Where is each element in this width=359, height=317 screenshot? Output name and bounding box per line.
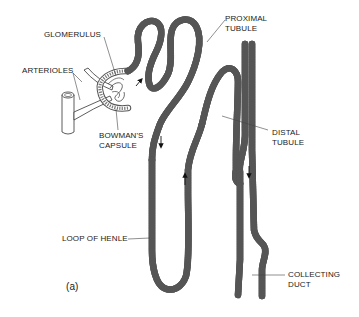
label-distal-tubule-2: TUBULE [272,138,304,148]
bowmans-capsule [100,71,128,108]
label-arterioles: ARTERIOLES [22,66,74,76]
label-collecting-duct-1: COLLECTING [288,270,340,280]
label-proximal-tubule-2: TUBULE [225,24,257,34]
label-bowmans-capsule-2: CAPSULE [99,141,137,151]
collecting-duct [238,44,265,296]
label-glomerulus: GLOMERULUS [44,30,101,40]
label-loop-of-henle: LOOP OF HENLE [62,234,128,244]
label-collecting-duct-2: DUCT [288,280,311,290]
panel-label: (a) [66,282,79,292]
label-bowmans-capsule-1: BOWMAN'S [99,131,144,141]
distal-tubule [202,68,240,184]
nephron-diagram: GLOMERULUS ARTERIOLES BOWMAN'S CAPSULE P… [0,0,359,317]
label-proximal-tubule-1: PROXIMAL [225,14,267,24]
label-distal-tubule-1: DISTAL [272,128,300,138]
arrow-icon [136,80,141,86]
loop-of-henle [152,124,202,290]
